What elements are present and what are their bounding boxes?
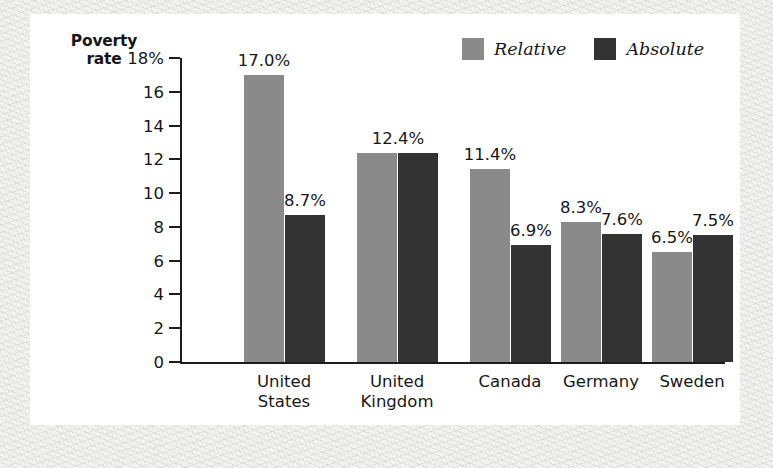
y-tick-label: 14 xyxy=(143,116,164,135)
legend-label-relative: Relative xyxy=(494,39,566,59)
legend-swatch-relative xyxy=(462,38,484,60)
bar-value-label: 7.5% xyxy=(692,211,734,230)
legend-label-absolute: Absolute xyxy=(626,39,704,59)
y-tick-mark xyxy=(169,226,180,228)
bar-value-label: 6.5% xyxy=(651,228,693,247)
y-tick-mark xyxy=(169,361,180,363)
y-tick-label: 16 xyxy=(143,82,164,101)
plot-area: 024681012141618% 17.0%8.7%12.4%11.4%6.9%… xyxy=(180,58,725,362)
y-tick-mark xyxy=(169,125,180,127)
bar-value-label: 17.0% xyxy=(238,51,290,70)
x-category-label-line: Sweden xyxy=(627,372,757,392)
y-tick-mark xyxy=(169,158,180,160)
y-tick-mark xyxy=(169,327,180,329)
chart-legend: Relative Absolute xyxy=(462,38,704,60)
y-tick-label: 10 xyxy=(143,184,164,203)
x-category-label: UnitedKingdom xyxy=(332,372,462,412)
y-tick-label: 6 xyxy=(154,251,165,270)
x-category-label-line: United xyxy=(332,372,462,392)
y-tick-label: 4 xyxy=(154,285,165,304)
bar-value-label: 8.3% xyxy=(560,198,602,217)
y-tick-label: 18% xyxy=(127,49,164,68)
bar-relative xyxy=(470,169,510,362)
x-category-label: UnitedStates xyxy=(219,372,349,412)
y-tick-label: 12 xyxy=(143,150,164,169)
chart-card: Poverty rate Relative Absolute 024681012… xyxy=(30,14,740,425)
x-category-label: Sweden xyxy=(627,372,757,392)
x-category-label-line: Kingdom xyxy=(332,392,462,412)
bar-group: 11.4%6.9% xyxy=(470,58,551,362)
bar-value-label: 6.9% xyxy=(510,221,552,240)
bar-relative xyxy=(561,222,601,362)
bar-absolute xyxy=(285,215,325,362)
bar-value-label: 11.4% xyxy=(464,145,516,164)
bar-absolute xyxy=(693,235,733,362)
x-axis-line xyxy=(180,362,725,364)
bar-relative xyxy=(652,252,692,362)
y-tick-mark xyxy=(169,192,180,194)
bar-absolute xyxy=(398,153,438,362)
y-tick-mark xyxy=(169,293,180,295)
y-tick-label: 2 xyxy=(154,319,165,338)
bar-group: 12.4% xyxy=(357,58,438,362)
legend-item-relative: Relative xyxy=(462,38,566,60)
bar-value-label: 8.7% xyxy=(284,191,326,210)
bar-group: 17.0%8.7% xyxy=(244,58,325,362)
y-tick-mark xyxy=(169,57,180,59)
bar-relative xyxy=(244,75,284,362)
y-axis-title-line2: rate xyxy=(86,50,121,68)
legend-swatch-absolute xyxy=(594,38,616,60)
legend-item-absolute: Absolute xyxy=(594,38,704,60)
bar-value-label: 12.4% xyxy=(372,129,424,148)
bar-value-label: 7.6% xyxy=(601,210,643,229)
y-tick-mark xyxy=(169,91,180,93)
bar-relative xyxy=(357,153,397,362)
bar-group: 8.3%7.6% xyxy=(561,58,642,362)
y-tick-label: 8 xyxy=(154,217,165,236)
y-axis-line xyxy=(180,58,182,362)
x-category-label-line: States xyxy=(219,392,349,412)
bar-group: 6.5%7.5% xyxy=(652,58,733,362)
y-tick-mark xyxy=(169,260,180,262)
y-axis-title-line1: Poverty xyxy=(71,32,137,50)
bar-absolute xyxy=(602,234,642,362)
x-category-label-line: United xyxy=(219,372,349,392)
bar-absolute xyxy=(511,245,551,362)
y-tick-label: 0 xyxy=(154,353,165,372)
